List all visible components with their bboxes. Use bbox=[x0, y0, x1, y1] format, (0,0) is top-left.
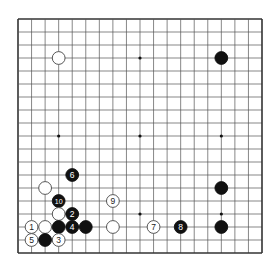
white-stone bbox=[106, 221, 119, 234]
move-number-label: 8 bbox=[178, 222, 183, 232]
star-point bbox=[57, 134, 60, 137]
black-stone bbox=[52, 221, 65, 234]
black-stone bbox=[215, 182, 228, 195]
move-number-label: 1 bbox=[29, 222, 34, 232]
white-stone bbox=[52, 208, 65, 221]
move-number-label: 5 bbox=[29, 235, 34, 245]
star-point bbox=[138, 56, 141, 59]
white-stone bbox=[39, 221, 52, 234]
star-point bbox=[138, 134, 141, 137]
move-number-label: 7 bbox=[151, 222, 156, 232]
move-number-label: 4 bbox=[70, 222, 75, 232]
white-stone bbox=[52, 52, 65, 65]
go-board: 61092147853 bbox=[0, 0, 279, 266]
star-point bbox=[138, 212, 141, 215]
move-number-label: 6 bbox=[70, 170, 75, 180]
white-stone bbox=[39, 182, 52, 195]
black-stone bbox=[215, 221, 228, 234]
move-number-label: 2 bbox=[70, 209, 75, 219]
black-stone bbox=[215, 52, 228, 65]
move-number-label: 3 bbox=[56, 235, 61, 245]
move-number-label: 10 bbox=[55, 198, 63, 205]
black-stone bbox=[79, 221, 92, 234]
move-number-label: 9 bbox=[111, 196, 116, 206]
star-point bbox=[220, 134, 223, 137]
star-point bbox=[220, 212, 223, 215]
black-stone bbox=[39, 234, 52, 247]
